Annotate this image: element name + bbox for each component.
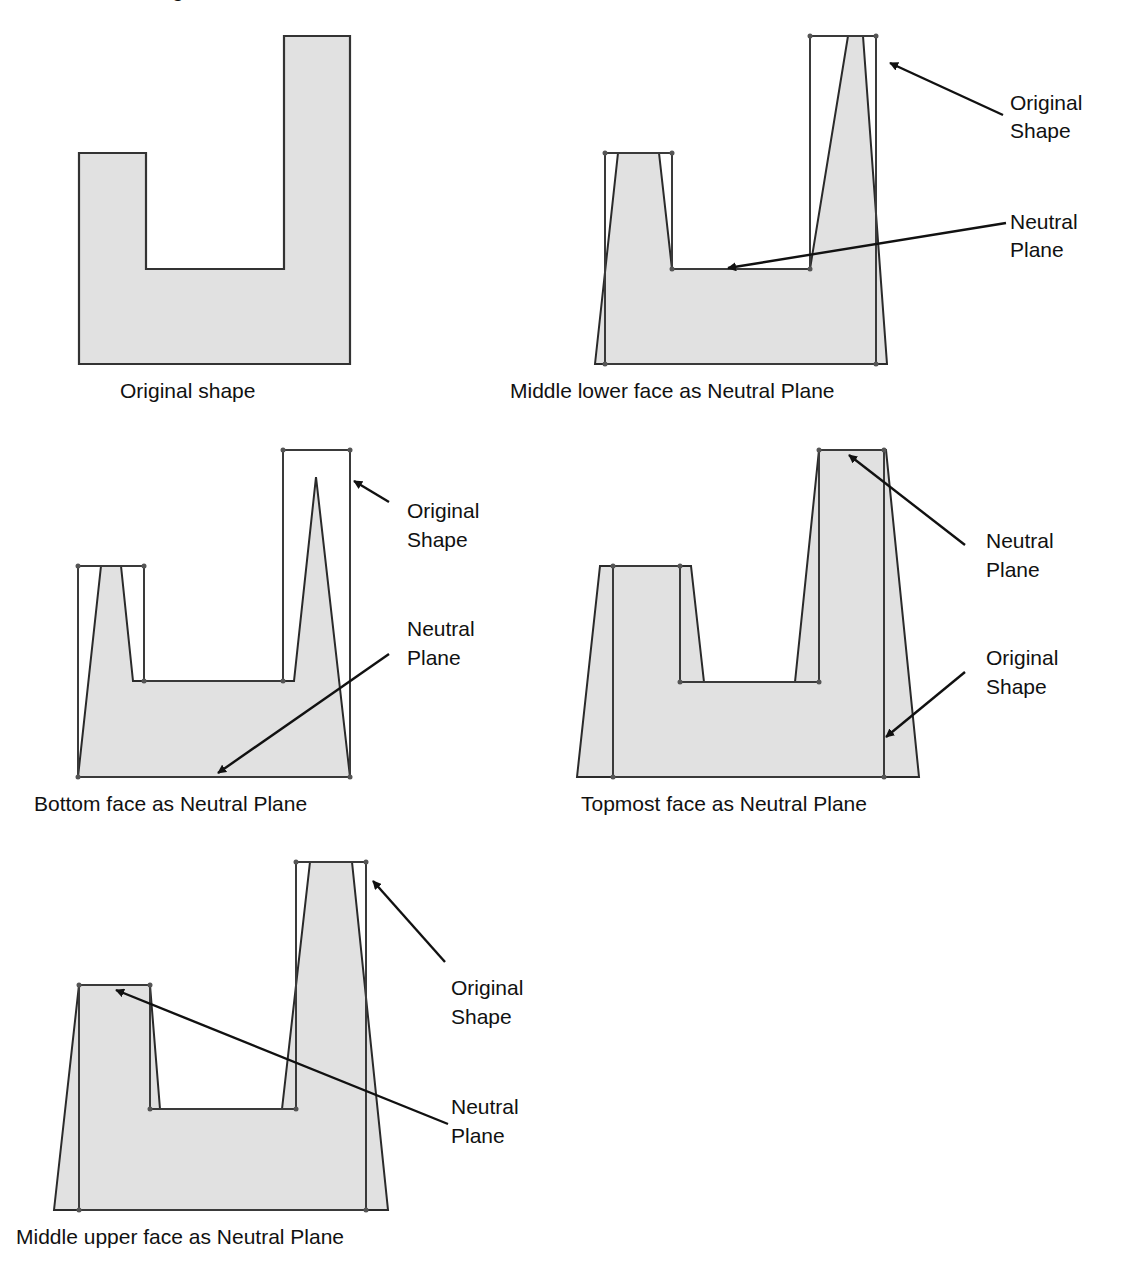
panel-bottom-face: Original Shape Neutral Plane Bottom face… <box>34 448 479 816</box>
deformed-shape <box>577 450 919 777</box>
panel-original-shape: Original shape <box>79 36 350 402</box>
label-original: Original <box>451 976 523 999</box>
label-plane: Plane <box>1010 238 1064 261</box>
panel-topmost-face: Neutral Plane Original Shape Topmost fac… <box>577 448 1058 816</box>
arrow-original-shape <box>354 481 389 502</box>
neutral-plane-diagram: g Original shape Original Shape Neutral … <box>0 0 1121 1273</box>
caption-bottom-face: Bottom face as Neutral Plane <box>34 792 307 815</box>
caption-middle-upper: Middle upper face as Neutral Plane <box>16 1225 344 1248</box>
caption-middle-lower: Middle lower face as Neutral Plane <box>510 379 835 402</box>
label-plane: Plane <box>451 1124 505 1147</box>
label-neutral: Neutral <box>407 617 475 640</box>
caption-topmost-face: Topmost face as Neutral Plane <box>581 792 867 815</box>
arrow-original-shape <box>890 63 1003 115</box>
label-original: Original <box>1010 91 1082 114</box>
label-plane: Plane <box>407 646 461 669</box>
deformed-shape <box>78 477 350 777</box>
svg-text:g: g <box>172 0 184 1</box>
deformed-shape <box>595 36 887 364</box>
label-neutral: Neutral <box>1010 210 1078 233</box>
label-shape: Shape <box>407 528 468 551</box>
cut-off-top-caption: g <box>172 0 184 1</box>
label-original: Original <box>407 499 479 522</box>
caption-original-shape: Original shape <box>120 379 255 402</box>
label-neutral: Neutral <box>986 529 1054 552</box>
label-plane: Plane <box>986 558 1040 581</box>
label-shape: Shape <box>451 1005 512 1028</box>
panel-middle-upper-face: Original Shape Neutral Plane Middle uppe… <box>16 860 523 1249</box>
arrow-original-shape <box>373 881 445 962</box>
label-shape: Shape <box>1010 119 1071 142</box>
deformed-shape <box>54 862 388 1210</box>
panel-middle-lower-face: Original Shape Neutral Plane Middle lowe… <box>510 34 1082 403</box>
label-neutral: Neutral <box>451 1095 519 1118</box>
label-original: Original <box>986 646 1058 669</box>
original-shape <box>79 36 350 364</box>
label-shape: Shape <box>986 675 1047 698</box>
